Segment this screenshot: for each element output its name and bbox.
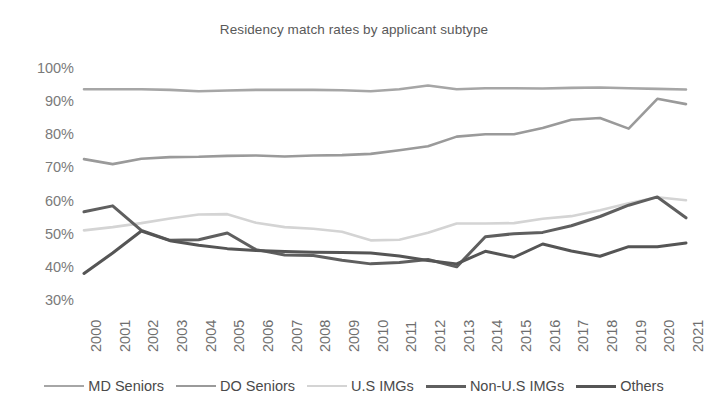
series-line-do-seniors xyxy=(84,99,686,164)
legend-item-label: Others xyxy=(620,378,664,394)
legend-item-u-s-imgs[interactable]: U.S IMGs xyxy=(307,378,414,394)
series-line-md-seniors xyxy=(84,86,686,92)
residency-match-rates-chart: Residency match rates by applicant subty… xyxy=(0,0,708,418)
legend-item-others[interactable]: Others xyxy=(576,378,664,394)
legend-item-label: MD Seniors xyxy=(88,378,164,394)
chart-legend: MD SeniorsDO SeniorsU.S IMGsNon-U.S IMGs… xyxy=(0,378,708,394)
series-line-others xyxy=(84,231,686,273)
legend-line-swatch xyxy=(44,385,84,387)
legend-item-md-seniors[interactable]: MD Seniors xyxy=(44,378,164,394)
legend-line-swatch xyxy=(307,385,347,387)
legend-item-non-u-s-imgs[interactable]: Non-U.S IMGs xyxy=(426,378,564,394)
legend-line-swatch xyxy=(576,385,616,388)
legend-item-do-seniors[interactable]: DO Seniors xyxy=(176,378,295,394)
legend-line-swatch xyxy=(426,385,466,388)
legend-item-label: DO Seniors xyxy=(220,378,295,394)
legend-item-label: Non-U.S IMGs xyxy=(470,378,564,394)
legend-item-label: U.S IMGs xyxy=(351,378,414,394)
legend-line-swatch xyxy=(176,385,216,387)
plot-area xyxy=(0,0,708,418)
